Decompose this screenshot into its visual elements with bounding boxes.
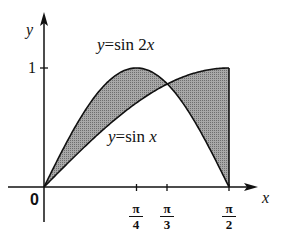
x-tick-label-pi2: π 2 <box>222 202 236 231</box>
x-tick-label-pi3: π 3 <box>160 202 174 231</box>
sin2x-curve-label: y=sin 2x <box>97 36 154 53</box>
y-axis-label: y <box>26 22 33 38</box>
y-tick-label-1: 1 <box>28 60 36 76</box>
origin-label: 0 <box>30 192 39 208</box>
x-tick-label-pi4: π 4 <box>129 202 143 231</box>
sinx-curve-label: y=sin x <box>108 128 157 145</box>
x-axis-label: x <box>262 190 269 206</box>
